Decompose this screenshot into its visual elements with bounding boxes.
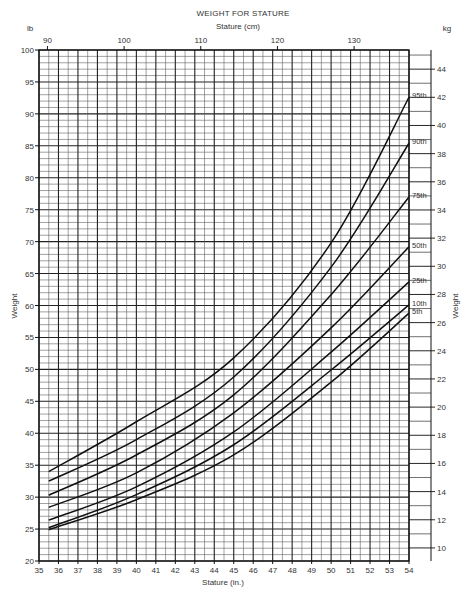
y-tick-label: 30 — [25, 493, 34, 502]
percentile-curve-90th — [49, 143, 409, 481]
left-unit-label: lb — [27, 24, 34, 33]
kg-tick-label: 20 — [437, 403, 446, 412]
kg-tick-label: 26 — [437, 319, 446, 328]
x-tick-label: 40 — [132, 566, 141, 575]
x-tick-label: 51 — [346, 566, 355, 575]
y-tick-label: 70 — [25, 238, 34, 247]
x-tick-label: 48 — [288, 566, 297, 575]
x-tick-label: 49 — [307, 566, 316, 575]
kg-tick-label: 24 — [437, 347, 446, 356]
x-tick-label: 53 — [385, 566, 394, 575]
y-tick-label: 45 — [25, 397, 34, 406]
kg-tick-label: 38 — [437, 150, 446, 159]
x-tick-label: 36 — [54, 566, 63, 575]
chart-canvas: 3536373839404142434445464748495051525354… — [0, 0, 465, 597]
x-axis-title: Stature (in.) — [202, 578, 244, 587]
percentile-label-95th: 95th — [412, 91, 427, 100]
y-tick-label: 25 — [25, 525, 34, 534]
y-tick-label: 85 — [25, 142, 34, 151]
kg-tick-label: 36 — [437, 178, 446, 187]
cm-tick-label: 100 — [117, 36, 131, 45]
x-tick-label: 54 — [405, 566, 414, 575]
percentile-label-90th: 90th — [412, 137, 427, 146]
y-axis-title-right: Weight — [451, 293, 460, 319]
percentile-label-50th: 50th — [412, 241, 427, 250]
top-axis-title: Stature (cm) — [216, 22, 260, 31]
percentile-label-5th: 5th — [412, 307, 422, 316]
percentile-label-25th: 25th — [412, 276, 427, 285]
x-tick-label: 45 — [229, 566, 238, 575]
kg-tick-label: 18 — [437, 431, 446, 440]
y-tick-label: 80 — [25, 174, 34, 183]
kg-tick-label: 30 — [437, 262, 446, 271]
x-tick-label: 52 — [366, 566, 375, 575]
y-tick-label: 40 — [25, 429, 34, 438]
kg-tick-label: 42 — [437, 93, 446, 102]
kg-tick-label: 10 — [437, 544, 446, 553]
y-axis-title: Weight — [10, 293, 19, 319]
kg-tick-label: 14 — [437, 488, 446, 497]
x-tick-label: 42 — [171, 566, 180, 575]
y-tick-label: 35 — [25, 461, 34, 470]
kg-tick-label: 34 — [437, 206, 446, 215]
x-tick-label: 35 — [35, 566, 44, 575]
percentile-curve-50th — [49, 247, 409, 508]
kg-tick-label: 32 — [437, 234, 446, 243]
cm-tick-label: 120 — [271, 36, 285, 45]
percentile-curve-95th — [49, 97, 409, 471]
cm-tick-label: 130 — [347, 36, 361, 45]
kg-tick-label: 22 — [437, 375, 446, 384]
right-unit-label: kg — [443, 24, 451, 33]
kg-tick-label: 16 — [437, 459, 446, 468]
y-tick-label: 55 — [25, 333, 34, 342]
y-tick-label: 90 — [25, 110, 34, 119]
y-tick-label: 60 — [25, 302, 34, 311]
percentile-label-75th: 75th — [412, 191, 427, 200]
kg-tick-label: 12 — [437, 516, 446, 525]
y-tick-label: 65 — [25, 270, 34, 279]
y-tick-label: 20 — [25, 557, 34, 566]
y-tick-label: 50 — [25, 365, 34, 374]
cm-tick-label: 110 — [194, 36, 207, 45]
kg-tick-label: 44 — [437, 65, 446, 74]
y-tick-label: 75 — [25, 206, 34, 215]
weight-for-stature-chart: 3536373839404142434445464748495051525354… — [0, 0, 465, 597]
x-tick-label: 50 — [327, 566, 336, 575]
kg-tick-label: 28 — [437, 290, 446, 299]
kg-tick-label: 40 — [437, 121, 446, 130]
x-tick-label: 43 — [190, 566, 199, 575]
x-tick-label: 41 — [151, 566, 160, 575]
x-tick-label: 46 — [249, 566, 258, 575]
x-tick-label: 37 — [73, 566, 82, 575]
x-tick-label: 47 — [268, 566, 277, 575]
x-tick-label: 44 — [210, 566, 219, 575]
x-tick-label: 38 — [93, 566, 102, 575]
y-tick-label: 100 — [21, 46, 35, 55]
cm-tick-label: 90 — [43, 36, 52, 45]
x-tick-label: 39 — [112, 566, 121, 575]
y-tick-label: 95 — [25, 78, 34, 87]
chart-title: WEIGHT FOR STATURE — [197, 9, 290, 18]
